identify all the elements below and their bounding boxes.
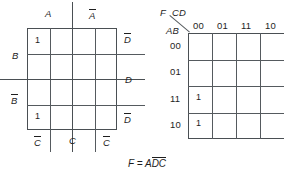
karnaugh-col-header: 01 bbox=[217, 21, 228, 31]
veitch-right-label-d: D bbox=[125, 75, 132, 85]
karnaugh-col-header: 11 bbox=[241, 21, 251, 31]
veitch-cell-value: 1 bbox=[35, 36, 40, 45]
formula-term-dc-barred: DC bbox=[152, 157, 166, 169]
veitch-right-label-d-bar-bottom: D bbox=[124, 113, 131, 125]
karnaugh-hgrid-2 bbox=[188, 86, 284, 87]
veitch-vline-cbar-right bbox=[95, 130, 96, 152]
karnaugh-output-label: F bbox=[160, 8, 166, 18]
veitch-hgrid-3 bbox=[27, 105, 117, 106]
karnaugh-col-var-label: CD bbox=[172, 8, 186, 18]
karnaugh-cell-value: 1 bbox=[196, 93, 201, 102]
veitch-cell-value: 1 bbox=[35, 112, 40, 121]
formula-prefix: F = bbox=[128, 158, 143, 169]
karnaugh-col-header: 10 bbox=[265, 21, 276, 31]
karnaugh-cell-value: 1 bbox=[196, 119, 201, 128]
karnaugh-hgrid-3 bbox=[188, 113, 284, 114]
figure-canvas: A A B B D D D C C C 1 1 F CD AB bbox=[0, 0, 284, 181]
veitch-bottom-label-c: C bbox=[69, 136, 76, 146]
karnaugh-row-header: 01 bbox=[170, 67, 181, 77]
karnaugh-row-var-label: AB bbox=[166, 26, 179, 36]
formula-term-a: A bbox=[145, 158, 152, 169]
result-formula: F = ADC bbox=[128, 157, 166, 169]
veitch-vgrid-2-extended bbox=[72, 2, 73, 152]
karnaugh-col-header: 00 bbox=[193, 21, 204, 31]
veitch-hgrid-2-extended bbox=[0, 79, 145, 80]
veitch-bottom-label-c-bar-right: C bbox=[103, 136, 110, 148]
veitch-left-label-b: B bbox=[12, 51, 19, 61]
veitch-top-label-a-bar: A bbox=[89, 9, 96, 21]
veitch-vline-cbar-left bbox=[50, 130, 51, 152]
karnaugh-row-header: 00 bbox=[170, 41, 181, 51]
veitch-hline-dbar-top bbox=[117, 54, 145, 55]
karnaugh-row-header: 10 bbox=[170, 120, 181, 130]
veitch-hline-dbar-bottom bbox=[117, 105, 145, 106]
veitch-top-label-a: A bbox=[45, 9, 52, 19]
veitch-hgrid-1 bbox=[27, 54, 117, 55]
karnaugh-row-header: 11 bbox=[170, 94, 180, 104]
veitch-left-label-b-bar: B bbox=[11, 94, 18, 106]
karnaugh-hgrid-1 bbox=[188, 60, 284, 61]
veitch-right-label-d-bar-top: D bbox=[124, 33, 131, 45]
veitch-bottom-label-c-bar-left: C bbox=[34, 136, 41, 148]
